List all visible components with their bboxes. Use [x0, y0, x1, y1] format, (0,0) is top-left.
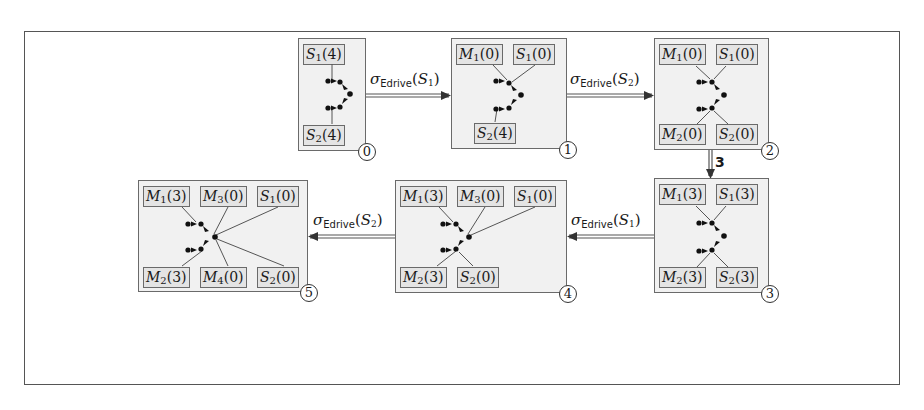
- argument-symbol: S: [619, 211, 629, 229]
- sigma-symbol: σ: [313, 211, 323, 229]
- mechanism-icon: [654, 178, 769, 293]
- argument-subscript: 1: [428, 78, 434, 88]
- state-box-3: M1(3) S1(3) M2(3) S2(3): [654, 178, 769, 293]
- state-box-2: M1(0) S1(0) M2(0) S2(0): [654, 38, 769, 150]
- argument-subscript: 2: [628, 78, 634, 88]
- transition-label-0-1: σEdrive(S1): [370, 70, 440, 89]
- mechanism-icon: [298, 38, 366, 151]
- operator-subscript: Edrive: [323, 219, 355, 230]
- arrow-3-to-4: [567, 232, 654, 241]
- argument-subscript: 1: [629, 219, 635, 229]
- argument-symbol: S: [418, 70, 428, 88]
- transition-label-2-3: 3: [715, 154, 725, 170]
- arrow-4-to-5: [308, 232, 395, 241]
- operator-subscript: Edrive: [581, 219, 613, 230]
- state-number-4: 4: [559, 285, 577, 303]
- state-number-3: 3: [761, 285, 779, 303]
- operator-subscript: Edrive: [380, 78, 412, 89]
- mechanism-icon: [395, 180, 567, 293]
- arrow-1-to-2: [567, 91, 654, 100]
- operator-subscript: Edrive: [580, 78, 612, 89]
- state-number-0: 0: [358, 143, 376, 161]
- argument-subscript: 2: [371, 219, 377, 229]
- state-box-5: M1(3) M3(0) S1(0) M2(3) M4(0) S2(0): [138, 180, 308, 292]
- state-number-2: 2: [761, 142, 779, 160]
- state-number-5: 5: [300, 284, 318, 302]
- sigma-symbol: σ: [370, 70, 380, 88]
- transition-label-4-5: σEdrive(S2): [313, 211, 383, 230]
- sigma-symbol: σ: [570, 70, 580, 88]
- transition-label-3-4: σEdrive(S1): [571, 211, 641, 230]
- state-number-1: 1: [559, 141, 577, 159]
- transition-label-1-2: σEdrive(S2): [570, 70, 640, 89]
- argument-symbol: S: [361, 211, 371, 229]
- mechanism-icon: [138, 180, 308, 292]
- arrow-2-to-3: [706, 150, 715, 179]
- state-box-4: M1(3) M3(0) S1(0) M2(3) S2(0): [395, 180, 567, 293]
- arrow-0-to-1: [366, 91, 451, 100]
- state-box-1: M1(0) S1(0) S2(4): [451, 38, 567, 149]
- state-box-0: S1(4) S2(4): [298, 38, 366, 151]
- argument-symbol: S: [618, 70, 628, 88]
- sigma-symbol: σ: [571, 211, 581, 229]
- mechanism-icon: [654, 38, 769, 150]
- mechanism-icon: [451, 38, 567, 149]
